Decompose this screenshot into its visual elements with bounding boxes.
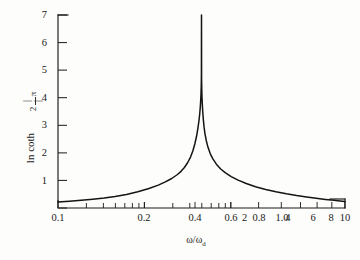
x-axis-ticks <box>58 200 345 208</box>
y-axis-label-numerator: π <box>28 91 38 96</box>
x-tick-label-7: 4 <box>285 213 290 224</box>
x-tick-label-3: 0.6 <box>224 213 237 224</box>
y-axis-label-denominator: 2 <box>28 107 38 112</box>
x-axis-title-denominator: ω <box>196 234 203 245</box>
y-tick-label-2: 2 <box>42 148 47 159</box>
x-tick-label-2: 0.4 <box>188 213 201 224</box>
data-curve <box>58 15 345 202</box>
x-tick-label-1: 0.2 <box>137 213 150 224</box>
y-tick-label-7: 7 <box>42 10 47 21</box>
x-tick-label-6: 2 <box>242 213 247 224</box>
x-tick-label-10: 10 <box>340 213 351 224</box>
x-axis-title-subscript: d <box>202 240 206 248</box>
y-axis-label-prefix: ln coth <box>24 132 36 163</box>
y-tick-label-6: 6 <box>42 38 47 49</box>
y-axis-ticks <box>58 15 67 208</box>
y-axis-label: ln coth | | π 2 <box>20 91 43 163</box>
x-tick-label-8: 6 <box>311 213 316 224</box>
x-tick-label-0: 0.1 <box>51 213 64 224</box>
x-axis-title: ω/ωd <box>186 234 205 248</box>
x-tick-label-9: 8 <box>328 213 333 224</box>
y-tick-label-1: 1 <box>42 176 47 187</box>
x-tick-label-4: 0.8 <box>252 213 265 224</box>
y-tick-label-4: 4 <box>42 93 47 104</box>
y-tick-label-5: 5 <box>42 65 47 76</box>
x-axis-title-numerator: ω <box>186 234 193 245</box>
figure-container: ln coth | | π 2 <box>0 0 360 260</box>
y-tick-label-3: 3 <box>42 120 47 131</box>
